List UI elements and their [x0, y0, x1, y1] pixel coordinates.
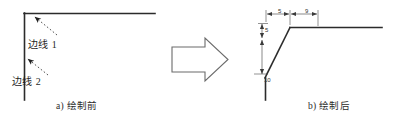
dimension-top-left-value: 5 [278, 8, 281, 14]
dimension-top-right-value: 9 [305, 8, 308, 14]
before-drawing-group [24, 13, 155, 100]
dimension-vertical-bottom-value: 10 [264, 77, 271, 83]
dimension-vertical-top-value: 5 [265, 27, 268, 33]
figure-container: 边线 1 边线 2 5 9 5 10 a) 绘制前 b) 绘制后 [0, 0, 393, 127]
edge-label-2: 边线 2 [12, 73, 41, 88]
after-chamfer-edge [265, 28, 290, 79]
caption-after: b) 绘制后 [308, 98, 350, 112]
caption-before: a) 绘制前 [56, 98, 98, 112]
edge-label-1: 边线 1 [28, 36, 57, 51]
right-block-arrow-icon [172, 38, 228, 81]
after-drawing-group [254, 10, 382, 100]
leader-line-edge-1 [35, 17, 57, 35]
